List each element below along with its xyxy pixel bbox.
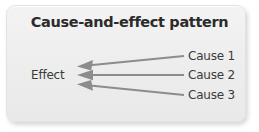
arrow-cause-3 <box>77 80 184 95</box>
node-label-cause-3: Cause 3 <box>188 88 235 102</box>
arrow-layer <box>0 0 259 132</box>
node-label-effect: Effect <box>31 68 65 82</box>
figure-container: Cause-and-effect pattern Effect Cause 1 … <box>0 0 259 132</box>
node-label-cause-1: Cause 1 <box>188 49 235 63</box>
arrow-cause-1 <box>77 56 184 71</box>
node-label-cause-2: Cause 2 <box>188 68 235 82</box>
arrow-cause-2 <box>77 70 184 80</box>
